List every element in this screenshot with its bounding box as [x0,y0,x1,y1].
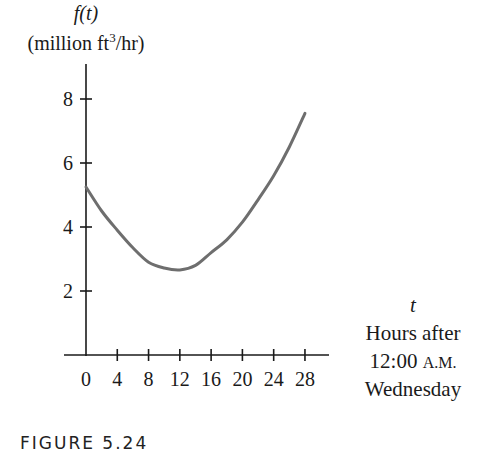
x-title-time: 12:00 [370,349,418,373]
x-tick-label: 20 [232,368,252,390]
x-tick-label: 8 [144,368,154,390]
x-axis-variable: t [340,290,486,320]
figure-caption: FIGURE 5.24 [20,433,148,453]
x-title-ampm: A.M. [423,354,457,371]
y-tick-label: 8 [63,88,73,110]
axes [64,64,329,356]
x-tick-label: 12 [170,368,190,390]
x-axis-title-line3: Wednesday [340,374,486,404]
x-tick-label: 24 [264,368,284,390]
data-curve [86,113,305,270]
x-var: t [410,293,416,317]
x-tick-label: 4 [112,368,122,390]
y-tick-label: 2 [63,280,73,302]
y-tick-label: 4 [63,216,73,238]
x-tick-label: 16 [201,368,221,390]
y-axis-ticks: 2468 [63,88,92,302]
x-tick-label: 28 [295,368,315,390]
y-tick-label: 6 [63,152,73,174]
x-axis-title-line1: Hours after [340,318,486,348]
x-tick-label: 0 [81,368,91,390]
